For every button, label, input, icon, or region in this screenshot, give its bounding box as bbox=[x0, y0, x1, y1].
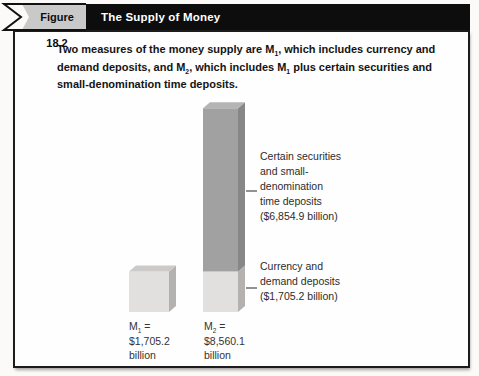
m2-value-label: M2 =$8,560.1billion bbox=[204, 319, 245, 363]
annotation-connector-lines bbox=[246, 191, 257, 288]
textbook-figure-page: { "figure": { "label": "Figure 18.2", "t… bbox=[0, 0, 479, 376]
annotation-certain-securities: Certain securitiesand small-denomination… bbox=[260, 149, 375, 224]
m1-value-label: M1 =$1,705.2billion bbox=[129, 319, 170, 363]
m1-bar bbox=[129, 265, 176, 312]
annotation-currency-deposits: Currency anddemand deposits($1,705.2 bil… bbox=[260, 259, 385, 304]
m2-bar bbox=[203, 102, 245, 312]
